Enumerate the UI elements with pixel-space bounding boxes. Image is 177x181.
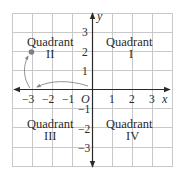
y-tick-neg3: −3 <box>78 142 90 154</box>
quadrant-iv-numeral: IV <box>126 129 139 143</box>
quadrant-ii-label: Quadrant II <box>27 35 74 61</box>
plotted-point <box>29 49 35 55</box>
quadrant-iii-label: Quadrant III <box>27 117 74 143</box>
x-tick-2: 2 <box>129 93 135 105</box>
path-arrow-horizontal <box>37 82 88 87</box>
x-tick-neg2: −2 <box>42 93 54 105</box>
y-tick-1: 1 <box>82 65 88 77</box>
y-tick-neg1: −1 <box>78 103 90 115</box>
quadrant-i-label: Quadrant I <box>106 35 153 61</box>
x-tick-1: 1 <box>109 93 115 105</box>
quadrant-iv-label: Quadrant IV <box>106 117 153 143</box>
coordinate-plane: y x O −3 −2 −1 1 2 3 3 2 1 −1 −2 −3 Quad… <box>0 0 177 181</box>
quadrant-i-numeral: I <box>129 47 133 61</box>
y-tick-3: 3 <box>82 26 88 38</box>
path-arrow-vertical <box>24 56 30 88</box>
x-tick-neg1: −1 <box>62 93 74 105</box>
y-axis-label: y <box>96 9 103 23</box>
y-tick-neg2: −2 <box>78 123 90 135</box>
x-axis-label: x <box>161 92 168 106</box>
y-tick-2: 2 <box>82 46 88 58</box>
quadrant-iii-numeral: III <box>44 129 57 143</box>
quadrant-ii-numeral: II <box>46 47 54 61</box>
x-tick-neg3: −3 <box>22 93 34 105</box>
x-tick-3: 3 <box>149 93 155 105</box>
